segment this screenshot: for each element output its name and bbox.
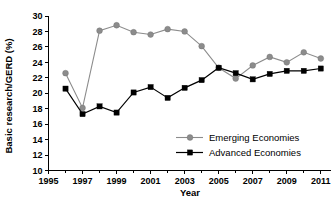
- data-point: [114, 110, 119, 115]
- y-axis-ticks: 1012141618202224262830: [32, 11, 48, 176]
- data-point: [301, 49, 307, 55]
- legend-label-advanced: Advanced Economies: [209, 147, 301, 158]
- data-point: [182, 85, 187, 90]
- y-tick-label: 10: [32, 166, 42, 176]
- y-tick-label: 26: [32, 42, 42, 52]
- legend-item-advanced[interactable]: Advanced Economies: [176, 147, 301, 158]
- line-chart: Basic research/GERD (%) Year 10121416182…: [0, 0, 335, 215]
- y-tick-label: 20: [32, 88, 42, 98]
- data-point: [199, 78, 204, 83]
- data-point: [216, 65, 221, 70]
- data-point: [165, 26, 171, 32]
- y-tick-label: 14: [32, 135, 42, 145]
- x-tick-label: 2003: [175, 176, 195, 186]
- y-tick-label: 24: [32, 58, 42, 68]
- y-tick-label: 18: [32, 104, 42, 114]
- x-tick-label: 1999: [107, 176, 127, 186]
- data-point: [318, 66, 323, 71]
- x-tick-label: 2001: [141, 176, 161, 186]
- series-line-emerging: [66, 25, 321, 108]
- series-line-advanced: [66, 68, 321, 114]
- x-tick-label: 2009: [277, 176, 297, 186]
- series-advanced: [63, 65, 323, 117]
- data-point: [80, 105, 86, 111]
- data-point: [131, 90, 136, 95]
- data-point: [199, 43, 205, 49]
- x-tick-label: 1995: [38, 176, 58, 186]
- x-tick-label: 2005: [209, 176, 229, 186]
- x-tick-label: 1997: [73, 176, 93, 186]
- data-point: [267, 54, 273, 60]
- data-point: [318, 56, 324, 62]
- data-point: [284, 68, 289, 73]
- data-point: [284, 59, 290, 65]
- y-axis-title: Basic research/GERD (%): [3, 38, 14, 153]
- data-point: [165, 95, 170, 100]
- data-point: [182, 29, 188, 35]
- data-point: [267, 71, 272, 76]
- legend-item-emerging[interactable]: Emerging Economies: [176, 132, 300, 143]
- data-point: [63, 70, 69, 76]
- y-tick-label: 28: [32, 27, 42, 37]
- y-tick-label: 30: [32, 11, 42, 21]
- x-tick-label: 2011: [311, 176, 331, 186]
- data-point: [233, 76, 239, 82]
- data-point: [250, 63, 256, 69]
- data-point: [148, 84, 153, 89]
- chart-legend: Emerging Economies Advanced Economies: [176, 132, 301, 158]
- chart-container: Basic research/GERD (%) Year 10121416182…: [0, 0, 335, 215]
- data-point: [250, 77, 255, 82]
- y-tick-label: 22: [32, 73, 42, 83]
- x-tick-label: 2007: [243, 176, 263, 186]
- data-point: [148, 32, 154, 38]
- series-layer: [63, 22, 324, 116]
- data-point: [131, 29, 137, 35]
- data-point: [97, 28, 103, 34]
- data-point: [301, 68, 306, 73]
- data-point: [97, 104, 102, 109]
- x-axis-ticks: 199519971999200120032005200720092011: [38, 171, 330, 186]
- data-point: [80, 112, 85, 117]
- legend-marker-advanced: [187, 150, 192, 155]
- y-tick-label: 16: [32, 119, 42, 129]
- legend-marker-emerging: [187, 135, 193, 141]
- series-emerging: [63, 22, 324, 110]
- y-tick-label: 12: [32, 150, 42, 160]
- x-axis-title: Year: [180, 187, 200, 198]
- legend-label-emerging: Emerging Economies: [209, 132, 300, 143]
- data-point: [233, 71, 238, 76]
- data-point: [63, 86, 68, 91]
- data-point: [114, 22, 120, 28]
